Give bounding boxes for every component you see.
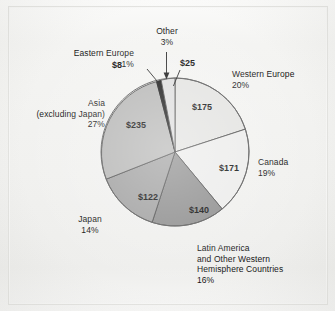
chart-figure: Other 3% Eastern Europe 1% Western Europ… — [0, 0, 335, 311]
label-western-europe-percent: 20% — [232, 80, 249, 90]
label-western-europe-name: Western Europe — [232, 69, 294, 79]
label-latin-america: Latin America and Other Western Hemisphe… — [197, 243, 327, 285]
label-asia-name-line1: Asia — [88, 98, 105, 108]
label-latin-america-line2: and Other Western — [197, 254, 270, 264]
label-canada-percent: 19% — [258, 168, 275, 178]
value-latin-america: $140 — [189, 205, 209, 215]
value-western-europe: $175 — [192, 102, 212, 112]
label-japan-percent: 14% — [81, 225, 98, 235]
label-latin-america-line1: Latin America — [197, 243, 250, 253]
label-eastern-europe-name: Eastern Europe — [74, 48, 134, 58]
label-eastern-europe-percent: 1% — [122, 59, 134, 69]
label-asia: Asia (excluding Japan) 27% — [15, 98, 105, 130]
leader-line-eastern-europe — [147, 69, 158, 82]
value-canada: $171 — [219, 163, 239, 173]
label-japan-name: Japan — [78, 214, 102, 224]
label-latin-america-percent: 16% — [197, 275, 214, 285]
label-western-europe: Western Europe 20% — [232, 69, 330, 90]
label-japan: Japan 14% — [62, 214, 118, 235]
value-eastern-europe: $8 — [112, 60, 122, 70]
label-other-name: Other — [156, 26, 178, 36]
label-canada: Canada 19% — [258, 157, 330, 178]
label-other: Other 3% — [132, 26, 202, 47]
label-asia-percent: 27% — [88, 119, 105, 129]
label-canada-name: Canada — [258, 157, 288, 167]
label-latin-america-line3: Hemisphere Countries — [197, 264, 283, 274]
value-asia: $235 — [126, 120, 146, 130]
value-other: $25 — [180, 58, 195, 68]
label-asia-name-line2: (excluding Japan) — [36, 109, 105, 119]
label-other-percent: 3% — [161, 37, 173, 47]
value-japan: $122 — [138, 192, 158, 202]
